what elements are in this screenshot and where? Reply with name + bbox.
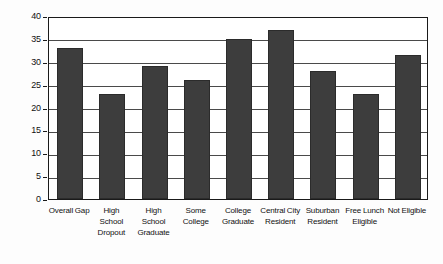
y-tick-mark bbox=[43, 154, 47, 155]
y-tick-mark bbox=[43, 131, 47, 132]
bar bbox=[226, 39, 252, 199]
y-tick-mark bbox=[43, 109, 47, 110]
y-tick-label: 25 bbox=[19, 81, 41, 90]
bar bbox=[99, 94, 125, 199]
bar bbox=[142, 66, 168, 199]
bar bbox=[395, 55, 421, 199]
bar-chart: 0510152025303540 Overall GapHighSchoolDr… bbox=[0, 0, 443, 264]
y-tick-label: 20 bbox=[19, 104, 41, 113]
bar bbox=[184, 80, 210, 199]
y-tick-label: 5 bbox=[19, 172, 41, 181]
y-tick-label: 10 bbox=[19, 149, 41, 158]
y-tick-mark bbox=[43, 17, 47, 18]
y-tick-label: 30 bbox=[19, 58, 41, 67]
x-axis-label-line: Not Eligible bbox=[380, 205, 434, 216]
x-axis-label-line: Graduate bbox=[126, 227, 180, 238]
y-tick-mark bbox=[43, 63, 47, 64]
y-tick-label: 40 bbox=[19, 12, 41, 21]
bar bbox=[57, 48, 83, 199]
y-tick-label: 35 bbox=[19, 35, 41, 44]
bar bbox=[310, 71, 336, 199]
y-tick-mark bbox=[43, 200, 47, 201]
bar bbox=[353, 94, 379, 199]
y-tick-label: 15 bbox=[19, 126, 41, 135]
y-tick-label: 0 bbox=[19, 195, 41, 204]
x-axis-label: Not Eligible bbox=[380, 205, 434, 216]
y-axis: 0510152025303540 bbox=[0, 0, 41, 264]
y-tick-mark bbox=[43, 40, 47, 41]
x-axis-label-line: Eligible bbox=[338, 216, 392, 227]
y-tick-mark bbox=[43, 86, 47, 87]
bar bbox=[268, 30, 294, 199]
plot-area bbox=[48, 17, 428, 200]
x-axis-labels: Overall GapHighSchoolDropoutHighSchoolGr… bbox=[48, 205, 428, 260]
y-tick-mark bbox=[43, 177, 47, 178]
